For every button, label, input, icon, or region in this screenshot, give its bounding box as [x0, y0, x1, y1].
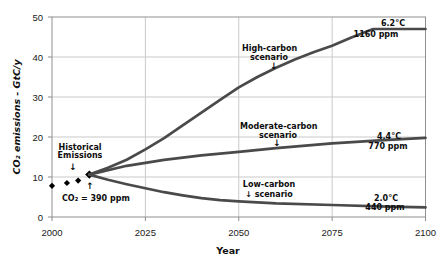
- ppm-770-label: 770 ppm: [364, 143, 412, 151]
- down-arrow-icon: ↓: [268, 61, 280, 71]
- low-carbon-scenario-label: Low-carbon ↓ scenario: [242, 180, 296, 200]
- historical-point-marker: [49, 183, 55, 189]
- historical-point-marker: [64, 180, 70, 186]
- x-tick-label-2100: 2100: [408, 227, 444, 238]
- historical-emissions-label: Historical Emissions: [57, 144, 103, 160]
- high-carbon-label-line1: High-carbon: [242, 44, 296, 53]
- temp-4-4c-label: 4.4°C: [373, 133, 405, 141]
- ppm-1160-label: 1160 ppm: [352, 31, 400, 39]
- ppm-440-label: 440 ppm: [361, 204, 409, 212]
- down-arrow-icon: ↓: [67, 162, 79, 172]
- temp-6-2c-label: 6.2°C: [378, 20, 408, 28]
- x-tick-label-2025: 2025: [127, 227, 163, 238]
- low-carbon-label-line1: Low-carbon: [242, 180, 296, 190]
- y-axis-title: CO₂ emissions - GtC/y: [11, 59, 22, 174]
- x-tick-label-2000: 2000: [34, 227, 70, 238]
- temp-2-0c-label: 2.0°C: [370, 195, 402, 203]
- x-axis-title: Year: [207, 245, 249, 256]
- low-carbon-label-line2: ↓ scenario: [242, 190, 296, 200]
- y-tick-label-0: 0: [12, 212, 43, 223]
- x-tick-label-2050: 2050: [221, 227, 257, 238]
- historical-point-marker: [75, 178, 81, 184]
- co2-390ppm-label: CO₂ = 390 ppm: [62, 195, 134, 203]
- historical-label-line2: Emissions: [57, 152, 103, 160]
- y-tick-label-50: 50: [12, 12, 43, 23]
- high-carbon-scenario-label: High-carbon scenario: [242, 44, 296, 62]
- x-tick-label-2075: 2075: [314, 227, 350, 238]
- co2-emissions-scenarios-chart: 2000202520502075210001020304050 CO₂ emis…: [0, 0, 448, 269]
- moderate-carbon-label-line1: Moderate-carbon: [240, 122, 316, 131]
- up-arrow-icon: ↑: [84, 181, 96, 191]
- down-arrow-icon: ↓: [271, 138, 283, 148]
